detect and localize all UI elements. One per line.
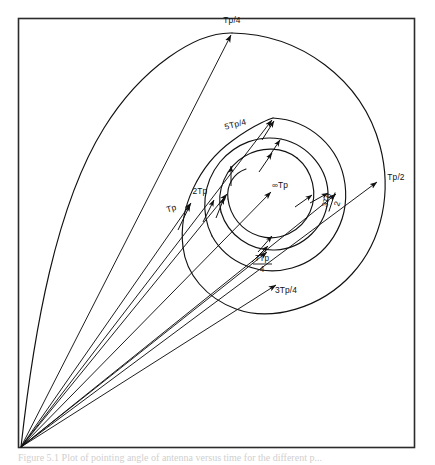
figure-caption: Figure 5.1 Plot of pointing angle of ant… <box>18 452 418 463</box>
label-infinity-tp: ∞Tp <box>272 180 288 190</box>
label-3tp-over-4: 3Tp/4 <box>275 285 297 295</box>
label-7tp-over-4-denominator: 4 <box>260 265 265 274</box>
label-7tp-over-4-numerator: 7Tp <box>255 254 270 263</box>
label-2tp: 2Tp <box>193 186 208 196</box>
spiral-phasor-diagram: Tp/4 5Tp/4 2Tp ∞Tp Tp/2 Tp 3Tp 2 7Tp 4 3… <box>0 0 435 465</box>
figure-frame <box>19 19 415 448</box>
label-tp-over-4: Tp/4 <box>223 15 241 25</box>
label-tp-over-2: Tp/2 <box>387 172 405 182</box>
figure-root: Tp/4 5Tp/4 2Tp ∞Tp Tp/2 Tp 3Tp 2 7Tp 4 3… <box>0 0 435 465</box>
